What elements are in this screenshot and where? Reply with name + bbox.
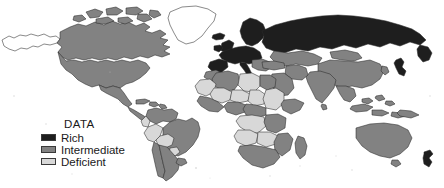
legend-item-rich: Rich bbox=[41, 132, 173, 143]
legend-swatch-rich bbox=[41, 134, 56, 141]
legend-label-rich: Rich bbox=[61, 132, 84, 144]
region-kenya-tanzania bbox=[264, 114, 286, 133]
region-ethiopia bbox=[281, 99, 304, 114]
region-turkey bbox=[262, 61, 285, 70]
legend-swatch-deficient bbox=[41, 158, 56, 165]
region-libya bbox=[238, 73, 260, 92]
region-mongolia bbox=[330, 50, 362, 61]
region-russian-far-east bbox=[417, 45, 432, 62]
legend-item-intermediate: Intermediate bbox=[41, 144, 173, 155]
region-indonesia bbox=[350, 95, 406, 118]
region-greenland bbox=[168, 6, 216, 44]
legend-swatch-intermediate bbox=[41, 146, 56, 153]
region-japan bbox=[394, 58, 406, 76]
region-canada bbox=[57, 21, 170, 60]
region-angola bbox=[234, 130, 258, 146]
region-india bbox=[306, 71, 336, 103]
region-southeast-asia bbox=[336, 86, 356, 102]
region-sri-lanka bbox=[321, 104, 327, 110]
region-iceland bbox=[212, 33, 225, 40]
region-australia bbox=[356, 123, 412, 158]
region-egypt bbox=[260, 75, 276, 90]
region-alaska bbox=[2, 34, 60, 51]
region-canadian-arctic bbox=[73, 7, 161, 24]
region-niger bbox=[230, 90, 250, 103]
map-legend: DATA Rich Intermediate Deficient bbox=[41, 118, 173, 168]
region-sudan bbox=[263, 88, 284, 110]
region-madagascar bbox=[295, 136, 307, 159]
region-mexico bbox=[99, 85, 132, 107]
legend-item-deficient: Deficient bbox=[41, 156, 173, 167]
legend-label-deficient: Deficient bbox=[61, 156, 106, 168]
region-caribbean bbox=[136, 99, 167, 109]
legend-title: DATA bbox=[64, 118, 173, 131]
region-south-africa bbox=[238, 145, 280, 168]
region-iberia bbox=[208, 59, 228, 72]
region-russia bbox=[262, 15, 426, 53]
region-tasmania bbox=[391, 160, 401, 167]
legend-label-intermediate: Intermediate bbox=[61, 144, 125, 156]
world-data-map-figure: DATA Rich Intermediate Deficient bbox=[0, 0, 444, 188]
region-new-zealand bbox=[423, 150, 433, 167]
region-nigeria bbox=[224, 102, 246, 115]
